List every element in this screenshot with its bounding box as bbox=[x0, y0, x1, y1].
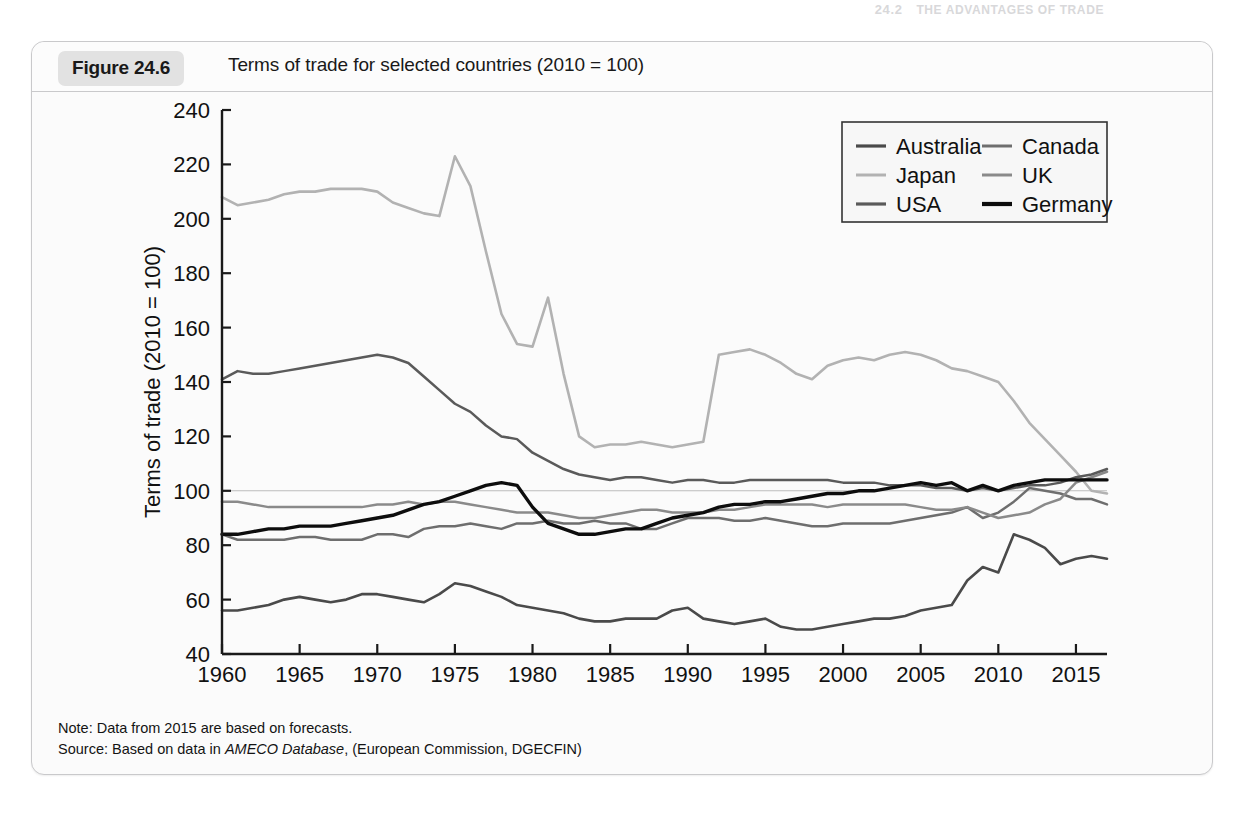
series-lines bbox=[222, 156, 1107, 629]
svg-text:1965: 1965 bbox=[275, 662, 324, 687]
chart-legend: AustraliaCanadaJapanUKUSAGermany bbox=[842, 122, 1112, 222]
svg-text:Australia: Australia bbox=[896, 134, 982, 159]
svg-text:2010: 2010 bbox=[974, 662, 1023, 687]
chart-plot-area: 406080100120140160180200220240 196019651… bbox=[32, 92, 1212, 722]
svg-text:60: 60 bbox=[186, 588, 210, 613]
svg-text:2015: 2015 bbox=[1051, 662, 1100, 687]
svg-text:1990: 1990 bbox=[663, 662, 712, 687]
svg-text:180: 180 bbox=[173, 261, 210, 286]
svg-text:80: 80 bbox=[186, 533, 210, 558]
svg-text:Japan: Japan bbox=[896, 163, 956, 188]
svg-text:Terms of trade (2010 = 100): Terms of trade (2010 = 100) bbox=[140, 246, 165, 518]
svg-text:2000: 2000 bbox=[819, 662, 868, 687]
y-axis-title: Terms of trade (2010 = 100) bbox=[140, 246, 165, 518]
svg-text:USA: USA bbox=[896, 192, 942, 217]
svg-text:160: 160 bbox=[173, 316, 210, 341]
svg-text:220: 220 bbox=[173, 152, 210, 177]
page-running-head: 24.2 THE ADVANTAGES OF TRADE bbox=[0, 2, 1250, 24]
svg-text:2005: 2005 bbox=[896, 662, 945, 687]
svg-text:Canada: Canada bbox=[1022, 134, 1100, 159]
terms-of-trade-line-chart: 406080100120140160180200220240 196019651… bbox=[32, 92, 1212, 722]
figure-card: Figure 24.6 Terms of trade for selected … bbox=[31, 41, 1213, 775]
svg-text:1975: 1975 bbox=[430, 662, 479, 687]
source-suffix: , (European Commission, DGECFIN) bbox=[344, 741, 582, 757]
figure-title-bar: Figure 24.6 Terms of trade for selected … bbox=[32, 42, 1212, 92]
svg-text:200: 200 bbox=[173, 207, 210, 232]
svg-text:120: 120 bbox=[173, 424, 210, 449]
figure-source-line: Source: Based on data in AMECO Database,… bbox=[58, 739, 1158, 760]
svg-text:1960: 1960 bbox=[198, 662, 247, 687]
svg-text:UK: UK bbox=[1022, 163, 1053, 188]
svg-text:1985: 1985 bbox=[586, 662, 635, 687]
svg-text:Germany: Germany bbox=[1022, 192, 1112, 217]
figure-notes: Note: Data from 2015 are based on foreca… bbox=[58, 718, 1158, 760]
chapter-number: 24.2 bbox=[875, 2, 903, 17]
figure-number-badge: Figure 24.6 bbox=[58, 51, 184, 86]
figure-title: Terms of trade for selected countries (2… bbox=[228, 54, 644, 76]
figure-note-line: Note: Data from 2015 are based on foreca… bbox=[58, 718, 1158, 739]
svg-text:1995: 1995 bbox=[741, 662, 790, 687]
svg-text:1980: 1980 bbox=[508, 662, 557, 687]
svg-text:140: 140 bbox=[173, 370, 210, 395]
svg-text:1970: 1970 bbox=[353, 662, 402, 687]
running-head-text: THE ADVANTAGES OF TRADE bbox=[916, 3, 1104, 17]
y-axis-tick-labels: 406080100120140160180200220240 bbox=[173, 98, 210, 667]
svg-text:100: 100 bbox=[173, 479, 210, 504]
x-axis-tick-labels: 1960196519701975198019851990199520002005… bbox=[198, 662, 1101, 687]
source-title: AMECO Database bbox=[225, 741, 344, 757]
svg-text:240: 240 bbox=[173, 98, 210, 123]
source-prefix: Source: Based on data in bbox=[58, 741, 225, 757]
